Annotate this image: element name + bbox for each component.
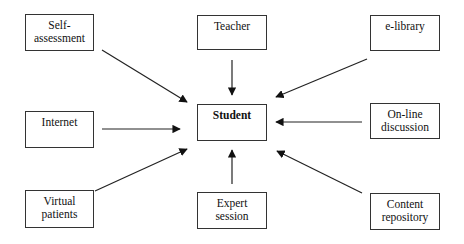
arrow-e-library [276,59,367,97]
node-label-line1: On-line [371,108,439,121]
node-virtual-patients: Virtual patients [25,190,94,228]
arrow-virtual-patients [95,149,187,191]
node-label-line1: Teacher [198,20,266,33]
node-e-library: e-library [370,15,440,51]
node-internet: Internet [25,111,94,148]
node-label-line1: e-library [371,20,439,33]
node-label-line2: discussion [371,121,439,134]
node-content-repository: Content repository [370,193,440,230]
node-on-line-discussion: On-line discussion [370,103,440,139]
node-label-line1: Virtual [26,195,93,208]
node-label-line2: patients [26,208,93,221]
arrow-self-assessment [102,50,187,102]
node-student: Student [197,104,267,141]
node-label-line2: session [198,210,266,223]
node-label-line1: Self- [26,19,93,32]
node-label-line1: Internet [26,116,93,129]
node-label-line2: repository [371,211,439,224]
node-label-line2: assessment [26,32,93,45]
center-label: Student [198,109,266,122]
node-self-assessment: Self- assessment [25,14,94,51]
node-expert-session: Expert session [197,192,267,229]
node-teacher: Teacher [197,15,267,50]
node-label-line1: Content [371,198,439,211]
node-label-line1: Expert [198,197,266,210]
arrow-content-repository [277,151,362,193]
